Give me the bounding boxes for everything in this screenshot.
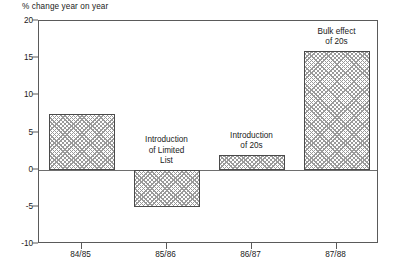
bar-annotation: Introduction of 20s bbox=[230, 131, 273, 152]
bar-annotation: Introduction of Limited List bbox=[145, 135, 188, 167]
x-axis-tick-label: 86/87 bbox=[240, 250, 261, 259]
x-axis-tick-label: 87/88 bbox=[325, 250, 346, 259]
x-axis-tick-marks bbox=[38, 243, 378, 249]
bar-chart: % change year on year -10-505101520 Intr… bbox=[0, 0, 393, 269]
bar bbox=[49, 114, 115, 170]
x-axis-tick-label: 85/86 bbox=[155, 250, 176, 259]
plot-area: Introduction of Limited ListIntroduction… bbox=[38, 20, 378, 243]
x-axis-tick-mark bbox=[81, 243, 82, 249]
x-axis-tick-labels: 84/8585/8686/8787/88 bbox=[38, 250, 378, 264]
x-axis-tick-mark bbox=[336, 243, 337, 249]
bar bbox=[219, 155, 285, 170]
x-axis-tick-mark bbox=[166, 243, 167, 249]
x-axis-tick-label: 84/85 bbox=[70, 250, 91, 259]
zero-baseline bbox=[39, 170, 377, 171]
bar bbox=[304, 51, 370, 170]
y-axis-tick-labels: -10-505101520 bbox=[0, 20, 33, 243]
x-axis-tick-mark bbox=[251, 243, 252, 249]
bar-annotation: Bulk effect of 20s bbox=[317, 27, 355, 48]
bar bbox=[134, 170, 200, 207]
y-axis-title: % change year on year bbox=[22, 2, 108, 11]
